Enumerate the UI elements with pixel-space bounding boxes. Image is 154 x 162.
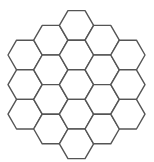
hexagon-grid <box>0 0 154 162</box>
